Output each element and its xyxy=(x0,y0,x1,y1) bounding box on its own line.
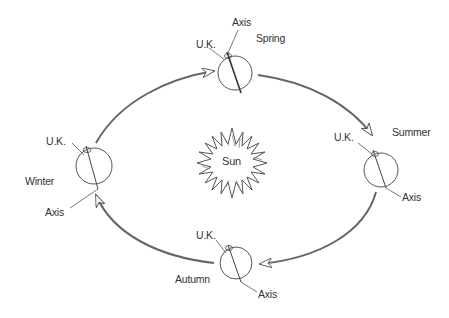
spring-axis-label: Axis xyxy=(232,16,251,28)
orbit-arrow-spring-to-summer xyxy=(258,75,372,135)
winter-season-label: Winter xyxy=(25,175,54,187)
autumn-axis-label: Axis xyxy=(258,288,277,300)
spring-season-label: Spring xyxy=(256,32,285,44)
sun-label: Sun xyxy=(222,155,241,167)
orbit-arrow-winter-to-spring xyxy=(96,71,214,143)
earth-autumn xyxy=(216,240,257,292)
autumn-uk-label: U.K. xyxy=(196,229,216,241)
winter-uk-label: U.K. xyxy=(46,135,66,147)
orbit-diagram: Sun Axis U.K. Spring U.K. Summer Axis U.… xyxy=(0,0,449,318)
summer-uk-label: U.K. xyxy=(334,131,354,143)
autumn-season-label: Autumn xyxy=(175,273,210,285)
winter-axis-label: Axis xyxy=(45,206,64,218)
summer-season-label: Summer xyxy=(392,126,430,138)
earth-summer xyxy=(358,143,401,197)
earth-winter xyxy=(70,143,112,208)
spring-uk-label: U.K. xyxy=(196,38,216,50)
summer-axis-label: Axis xyxy=(402,191,421,203)
orbit-arrow-summer-to-autumn xyxy=(260,192,376,264)
